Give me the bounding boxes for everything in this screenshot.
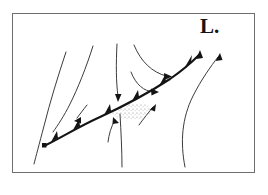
streamline-right-curve-lower [131,72,153,92]
weather-front-figure: L. [0,0,268,195]
warm-front-tail-marker [42,143,47,148]
precipitation-stipple-region [112,103,152,119]
streamline-right-outer [182,57,218,167]
streamline-center-upper [116,44,118,96]
streamline-right-curve-upper [134,45,166,76]
diagram-canvas [0,0,268,195]
arrowhead-below-front-left [113,117,120,124]
arrowhead-right-outer-up [216,53,223,61]
warm-front-barb-group [42,50,203,148]
low-pressure-label: L. [200,16,219,37]
streamline-left-inner [53,46,93,132]
warm-front-head-arrow [196,50,203,59]
arrowhead-center-down [115,94,122,102]
streamline-left-outer [34,52,66,164]
warm-front-line [46,55,199,145]
streamline-center-lower [120,114,122,167]
streamline-inflow-left-short [77,105,87,118]
